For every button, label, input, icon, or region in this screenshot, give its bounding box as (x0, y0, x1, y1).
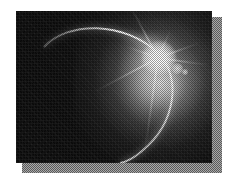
drop-shadow-bottom (22, 163, 222, 173)
flare-core (142, 41, 176, 75)
lens-flare-ghost-small (182, 69, 188, 75)
starburst-flare (16, 11, 212, 163)
eclipse-photograph (16, 11, 212, 163)
page-canvas (0, 0, 227, 187)
drop-shadow-right (212, 17, 222, 163)
